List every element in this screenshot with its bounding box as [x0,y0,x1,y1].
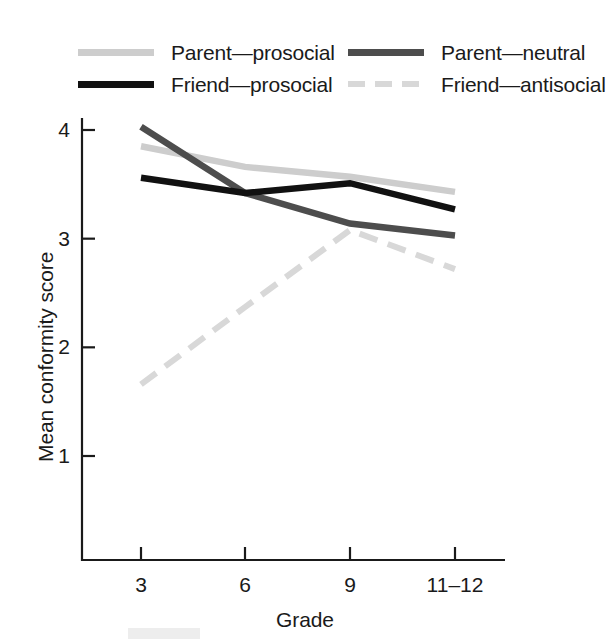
chart-axes [82,118,505,560]
x-tick-label: 3 [91,574,191,595]
figure: Parent—prosocial Parent—neutral Friend—p… [0,0,610,642]
chart-series-group [141,127,455,385]
x-axis-title: Grade [0,608,610,632]
x-tick-label: 11–12 [405,574,505,595]
scan-artifact [128,628,200,639]
series-line-parent-neutral [141,127,455,236]
y-axis-title: Mean conformity score [34,252,58,462]
y-tick-label: 4 [38,119,70,140]
chart-canvas [0,0,610,642]
x-tick-label: 9 [300,574,400,595]
y-tick-label: 3 [38,228,70,249]
line-chart-plot: 1234 36911–12 Mean conformity score Grad… [0,0,610,642]
x-tick-label: 6 [195,574,295,595]
series-line-friend-antisocial [141,230,455,384]
